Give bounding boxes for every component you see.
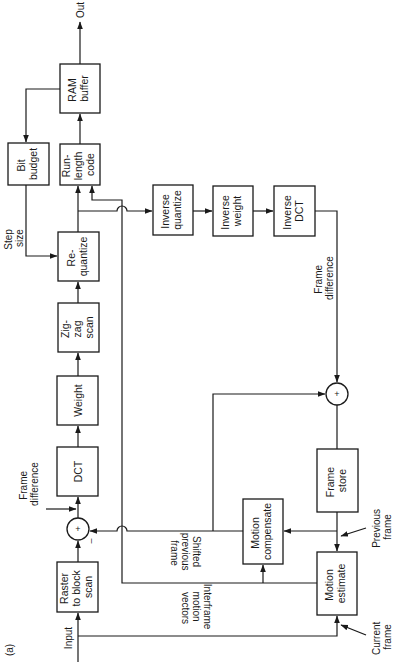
block-bit-budget: Bit budget	[8, 143, 49, 185]
block-inverse-quantize: Inverse quantize	[153, 185, 193, 235]
wire-shifted-to-sum	[90, 526, 243, 531]
block-runlength: Run- length code	[60, 144, 100, 185]
block-inverse-weight: Inverse weight	[213, 186, 253, 236]
svg-text:Inverse quantize: Inverse quantize	[159, 190, 183, 230]
svg-text:–: –	[86, 538, 96, 543]
svg-text:Motion estimate: Motion estimate	[323, 564, 347, 604]
label-out: Out	[75, 2, 86, 18]
block-inverse-dct: Inverse DCT	[274, 186, 315, 236]
block-raster: Raster to block scan	[57, 562, 98, 612]
label-interframe-motion-vectors: Interframe motion vectors	[180, 584, 213, 632]
svg-text:DCT: DCT	[72, 460, 84, 482]
wire-stepsize	[26, 185, 57, 256]
figure-label: (a)	[4, 644, 15, 656]
svg-text:Weight: Weight	[72, 384, 84, 417]
block-ram-buffer: RAM buffer	[60, 64, 100, 113]
label-previous-frame: Previous frame	[371, 506, 393, 548]
svg-text:RAM buffer: RAM buffer	[66, 75, 90, 102]
svg-text:Inverse weight: Inverse weight	[219, 192, 243, 229]
block-requantize: Re- quantize	[58, 232, 99, 281]
wire-branch-invquant	[78, 206, 152, 211]
label-shifted-previous-frame: Shifted previous frame	[169, 533, 202, 574]
block-frame-store: Frame store	[317, 449, 358, 512]
svg-text:Run- length code: Run- length code	[60, 149, 96, 181]
label-frame-difference-input: Frame difference	[18, 462, 40, 506]
label-input: Input	[63, 627, 74, 649]
svg-text:Zig- zag scan: Zig- zag scan	[59, 316, 95, 338]
block-diagram: Raster to block scan DCT Weight Zig- zag…	[0, 0, 397, 664]
label-current-frame: Current frame	[371, 619, 393, 655]
svg-text:+: +	[75, 524, 80, 534]
block-motion-compensate: Motion compensate	[243, 499, 283, 564]
label-step-size: Step size	[3, 226, 25, 249]
block-motion-estimate: Motion estimate	[317, 552, 357, 615]
summer-reconstruction: +	[326, 383, 348, 405]
block-weight: Weight	[57, 376, 98, 425]
pointer-previous-frame	[341, 528, 366, 536]
label-frame-difference-recon: Frame difference	[313, 256, 335, 300]
svg-text:Frame store: Frame store	[324, 464, 348, 497]
wire-ram-bitbudget	[26, 89, 60, 142]
pointer-current-frame	[341, 625, 366, 635]
block-dct: DCT	[57, 447, 98, 496]
svg-text:+: +	[334, 389, 339, 399]
block-zigzag: Zig- zag scan	[58, 303, 99, 352]
